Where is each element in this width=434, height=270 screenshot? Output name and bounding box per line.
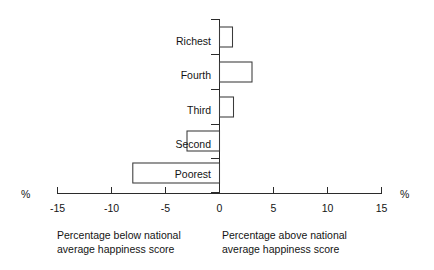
category-label-third: Third bbox=[187, 104, 211, 116]
category-label-fourth: Fourth bbox=[181, 69, 212, 81]
x-tick-label-10: 10 bbox=[322, 202, 334, 214]
happiness-score-bar-chart: Richest Fourth Third Second Poorest -15 … bbox=[0, 0, 434, 270]
category-label-second: Second bbox=[175, 138, 211, 150]
x-tick-label-5: 5 bbox=[271, 202, 277, 214]
x-tick-label-group: -15 -10 -5 0 5 10 15 bbox=[50, 202, 388, 214]
caption-above-national-average: Percentage above national average happin… bbox=[222, 229, 397, 256]
category-label-group: Richest Fourth Third Second Poorest bbox=[175, 35, 211, 180]
bar-richest bbox=[220, 27, 233, 47]
x-tick-label-minus5: -5 bbox=[161, 202, 170, 214]
x-tick-label-zero: 0 bbox=[217, 202, 223, 214]
x-tick-label-minus15: -15 bbox=[50, 202, 65, 214]
category-label-richest: Richest bbox=[176, 35, 211, 47]
percent-label-right: % bbox=[400, 188, 409, 200]
caption-below-national-average: Percentage below national average happin… bbox=[57, 229, 227, 256]
x-tick-label-minus10: -10 bbox=[104, 202, 119, 214]
bar-fourth bbox=[220, 62, 253, 82]
bar-third bbox=[220, 97, 234, 117]
x-tick-label-15: 15 bbox=[376, 202, 388, 214]
category-label-poorest: Poorest bbox=[175, 168, 211, 180]
percent-label-left: % bbox=[21, 188, 30, 200]
